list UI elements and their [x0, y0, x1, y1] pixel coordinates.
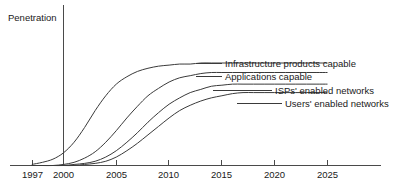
x-tick-label-2000: 2000: [53, 169, 74, 180]
x-tick-label-2020: 2020: [264, 169, 285, 180]
y-axis-title: Penetration: [8, 12, 57, 23]
series-labels: Infrastructure products capable Applicat…: [225, 58, 389, 109]
series-label-infrastructure-products-capable: Infrastructure products capable: [225, 58, 356, 69]
x-tick-label-1997: 1997: [22, 169, 43, 180]
series-label-isps-enabled-networks: ISPs' enabled networks: [275, 85, 374, 96]
x-tick-label-2005: 2005: [106, 169, 127, 180]
x-axis-tick-labels: 1997 2000 2005 2010 2015 2020 2025: [22, 169, 338, 180]
chart-container: 1997 2000 2005 2010 2015 2020 2025 Penet…: [0, 0, 395, 192]
curve-series-4-users-enabled-networks: [32, 93, 328, 166]
label-leader-lines: [196, 64, 282, 104]
series-label-users-enabled-networks: Users' enabled networks: [285, 98, 389, 109]
x-tick-label-2010: 2010: [158, 169, 179, 180]
curve-series-3-isps-enabled-networks: [32, 84, 328, 166]
x-tick-label-2025: 2025: [317, 169, 338, 180]
series-label-applications-capable: Applications capable: [225, 71, 312, 82]
x-tick-label-2015: 2015: [211, 169, 232, 180]
technology-adoption-s-curve-chart: 1997 2000 2005 2010 2015 2020 2025 Penet…: [0, 0, 395, 192]
